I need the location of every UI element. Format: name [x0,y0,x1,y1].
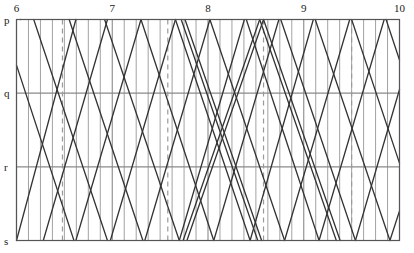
time-tick-label-10: 10 [394,3,405,14]
train-path [34,20,108,241]
train-path [246,20,319,241]
time-tick-label-8: 8 [205,3,211,14]
train-path [179,20,244,241]
train-path [264,20,341,241]
major-gridlines [17,20,400,241]
station-tick-label-q: q [4,88,10,99]
train-path [390,211,400,240]
train-path [175,20,250,241]
station-tick-label-r: r [4,161,8,172]
train-path [43,20,107,241]
train-path [260,20,337,241]
train-path [17,20,76,241]
train-path [110,20,175,241]
chart-container: 678910 pqrs [0,0,414,253]
time-tick-label-9: 9 [301,3,307,14]
train-path [386,20,399,61]
string-diagram-plot [0,0,414,253]
time-tick-label-6: 6 [14,3,20,14]
station-tick-label-s: s [4,235,8,246]
train-path [145,20,210,241]
train-path [17,65,74,240]
station-tick-label-p: p [4,14,10,25]
train-path [187,20,264,241]
train-path [315,20,390,241]
train-path [355,89,399,240]
time-tick-label-7: 7 [110,3,116,14]
